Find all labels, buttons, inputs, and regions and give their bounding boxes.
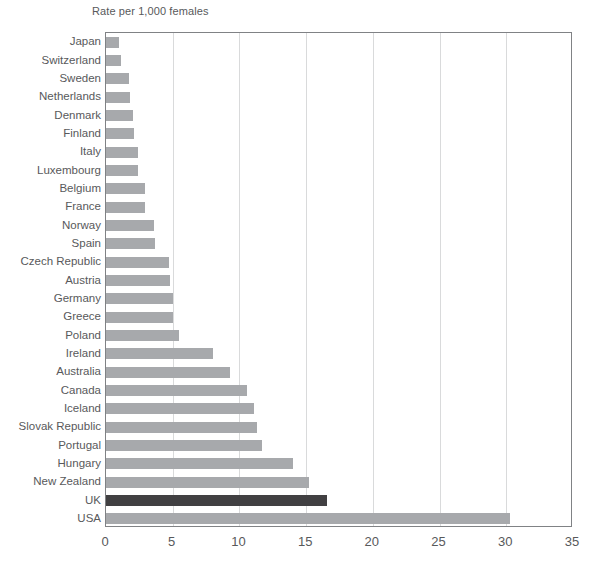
bar-netherlands xyxy=(106,92,130,103)
bar-iceland xyxy=(106,403,254,414)
x-axis-tick-labels: 05101520253035 xyxy=(105,528,572,556)
bar-spain xyxy=(106,238,155,249)
category-label-portugal: Portugal xyxy=(0,439,101,451)
category-label-spain: Spain xyxy=(0,237,101,249)
bar-row xyxy=(106,290,173,308)
bar-row xyxy=(106,235,155,253)
bar-norway xyxy=(106,220,154,231)
bar-new-zealand xyxy=(106,477,309,488)
bar-czech-republic xyxy=(106,257,169,268)
bar-row xyxy=(106,308,173,326)
bar-row xyxy=(106,33,119,51)
bar-canada xyxy=(106,385,247,396)
bar-row xyxy=(106,88,130,106)
category-label-ireland: Ireland xyxy=(0,347,101,359)
bar-row xyxy=(106,381,247,399)
category-label-luxembourg: Luxembourg xyxy=(0,164,101,176)
bar-usa xyxy=(106,513,510,524)
x-tick-label: 30 xyxy=(498,534,512,549)
bars-layer xyxy=(106,33,571,526)
category-label-czech-republic: Czech Republic xyxy=(0,255,101,267)
bar-row xyxy=(106,326,179,344)
bar-luxembourg xyxy=(106,165,138,176)
category-label-switzerland: Switzerland xyxy=(0,54,101,66)
bar-japan xyxy=(106,37,119,48)
bar-italy xyxy=(106,147,138,158)
bar-row xyxy=(106,418,257,436)
x-tick-label: 35 xyxy=(565,534,579,549)
x-tick-label: 20 xyxy=(365,534,379,549)
bar-ireland xyxy=(106,348,213,359)
bar-austria xyxy=(106,275,170,286)
category-label-japan: Japan xyxy=(0,35,101,47)
bar-row xyxy=(106,345,213,363)
category-label-new-zealand: New Zealand xyxy=(0,475,101,487)
bar-row xyxy=(106,253,169,271)
bar-row xyxy=(106,180,145,198)
x-tick-label: 0 xyxy=(101,534,108,549)
bar-row xyxy=(106,455,293,473)
category-label-greece: Greece xyxy=(0,310,101,322)
category-label-sweden: Sweden xyxy=(0,72,101,84)
x-tick-label: 15 xyxy=(298,534,312,549)
bar-greece xyxy=(106,312,173,323)
bar-row xyxy=(106,363,230,381)
plot-area xyxy=(105,32,572,527)
bar-sweden xyxy=(106,73,129,84)
bar-row xyxy=(106,510,510,528)
category-label-austria: Austria xyxy=(0,274,101,286)
category-label-canada: Canada xyxy=(0,384,101,396)
bar-row xyxy=(106,51,121,69)
category-label-iceland: Iceland xyxy=(0,402,101,414)
bar-row xyxy=(106,70,129,88)
category-label-denmark: Denmark xyxy=(0,109,101,121)
category-label-usa: USA xyxy=(0,512,101,524)
bar-row xyxy=(106,125,134,143)
category-label-slovak-republic: Slovak Republic xyxy=(0,420,101,432)
bar-hungary xyxy=(106,458,293,469)
bar-portugal xyxy=(106,440,262,451)
bar-finland xyxy=(106,128,134,139)
chart-axis-title: Rate per 1,000 females xyxy=(92,5,209,17)
x-tick-label: 10 xyxy=(231,534,245,549)
bar-switzerland xyxy=(106,55,121,66)
category-label-belgium: Belgium xyxy=(0,182,101,194)
category-label-netherlands: Netherlands xyxy=(0,90,101,102)
category-label-australia: Australia xyxy=(0,365,101,377)
bar-poland xyxy=(106,330,179,341)
bar-row xyxy=(106,436,262,454)
bar-belgium xyxy=(106,183,145,194)
teenage-birth-rate-bar-chart: Rate per 1,000 females JapanSwitzerlandS… xyxy=(0,0,589,566)
bar-slovak-republic xyxy=(106,422,257,433)
bar-row xyxy=(106,216,154,234)
bar-row xyxy=(106,106,133,124)
bar-row xyxy=(106,161,138,179)
category-label-italy: Italy xyxy=(0,145,101,157)
bar-row xyxy=(106,491,327,509)
bar-row xyxy=(106,271,170,289)
category-axis-labels: JapanSwitzerlandSwedenNetherlandsDenmark… xyxy=(0,32,101,527)
bar-row xyxy=(106,400,254,418)
category-label-poland: Poland xyxy=(0,329,101,341)
bar-denmark xyxy=(106,110,133,121)
bar-row xyxy=(106,473,309,491)
category-label-france: France xyxy=(0,200,101,212)
x-tick-label: 5 xyxy=(168,534,175,549)
bar-germany xyxy=(106,293,173,304)
bar-row xyxy=(106,198,145,216)
bar-france xyxy=(106,202,145,213)
bar-row xyxy=(106,143,138,161)
category-label-hungary: Hungary xyxy=(0,457,101,469)
category-label-germany: Germany xyxy=(0,292,101,304)
bar-australia xyxy=(106,367,230,378)
bar-uk xyxy=(106,495,327,506)
category-label-finland: Finland xyxy=(0,127,101,139)
category-label-norway: Norway xyxy=(0,219,101,231)
x-tick-label: 25 xyxy=(431,534,445,549)
category-label-uk: UK xyxy=(0,494,101,506)
